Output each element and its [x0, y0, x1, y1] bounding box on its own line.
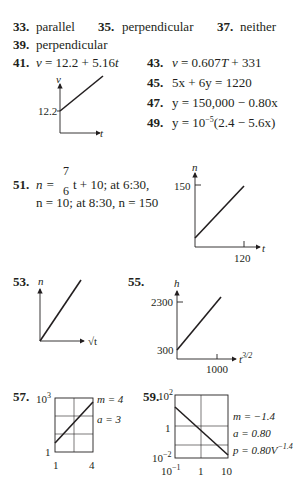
graph-53 [40, 280, 84, 341]
graph-55 [177, 291, 236, 359]
graph-41 [57, 76, 103, 133]
graph-59 [175, 395, 228, 458]
graphs-canvas [0, 0, 301, 480]
graph-51 [195, 173, 260, 247]
graph-57 [55, 398, 93, 452]
